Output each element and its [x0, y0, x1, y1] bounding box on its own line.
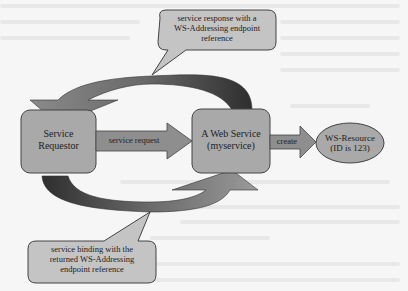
web-service-line1: A Web Service — [192, 128, 270, 140]
binding-curved-arrow — [42, 170, 258, 212]
binding-callout-text: service binding with the returned WS-Add… — [28, 245, 156, 274]
ws-resource-line1: WS-Resource — [316, 133, 384, 143]
binding-callout-line3: endpoint reference — [28, 265, 156, 275]
ws-resource-line2: (ID is 123) — [316, 143, 384, 153]
service-requestor-label: Service Requestor — [21, 128, 96, 151]
create-label: create — [270, 137, 304, 147]
service-requestor-line1: Service — [21, 128, 96, 140]
ws-resource-label: WS-Resource (ID is 123) — [316, 133, 384, 154]
service-requestor-line2: Requestor — [21, 140, 96, 152]
web-service-line2: (myservice) — [192, 140, 270, 152]
service-request-label: service request — [98, 136, 170, 146]
response-callout-text: service response with a WS-Addressing en… — [158, 14, 276, 43]
web-service-label: A Web Service (myservice) — [192, 128, 270, 151]
response-callout-line3: reference — [158, 34, 276, 44]
